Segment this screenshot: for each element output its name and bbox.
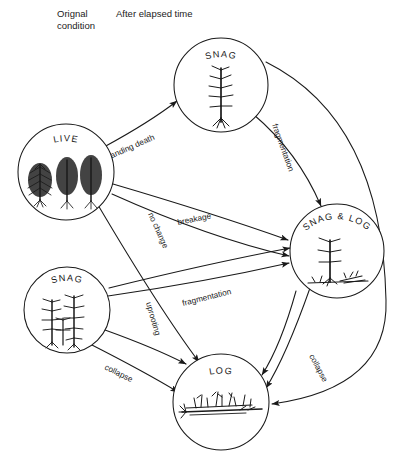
diagram-canvas: Orignal condition After elapsed time sta…: [0, 0, 399, 467]
edge-live-to-snaglog-breakage: breakage: [113, 184, 288, 240]
node-snag-top[interactable]: SNAG: [174, 38, 268, 132]
edge-label-breakage: breakage: [177, 212, 213, 227]
edge-live-to-snag-top: standing death: [103, 101, 177, 163]
diagram-graph: standing death breakage no change fragme…: [0, 0, 399, 467]
node-snag-bottom[interactable]: SNAG: [24, 267, 110, 353]
edge-label-fragmentation-bottom: fragmentation: [181, 287, 232, 308]
edge-snaglog-to-log-collapse: collapse: [266, 288, 329, 388]
edge-label-collapse-left: collapse: [103, 363, 134, 384]
node-live[interactable]: LIVE: [18, 124, 114, 220]
edge-snag-top-to-snaglog: fragmentation: [253, 114, 321, 206]
edge-snag-bot-to-log-uprooting: uprooting: [105, 301, 186, 364]
edge-snag-bot-to-log-collapse: collapse: [90, 344, 178, 392]
node-live-label: LIVE: [52, 133, 79, 144]
edge-label-uprooting: uprooting: [144, 301, 162, 337]
edge-live-to-snaglog-secondary: [112, 194, 289, 256]
edge-label-collapse-right: collapse: [307, 353, 329, 384]
edge-snaglog-to-log-secondary: [262, 291, 296, 375]
node-log-label: LOG: [208, 366, 233, 377]
node-log[interactable]: LOG: [173, 354, 269, 450]
edge-snag-bot-to-snaglog: fragmentation: [108, 263, 289, 308]
node-snag-and-log[interactable]: SNAG & LOG: [290, 204, 384, 298]
edge-label-fragmentation-top: fragmentation: [270, 123, 296, 174]
